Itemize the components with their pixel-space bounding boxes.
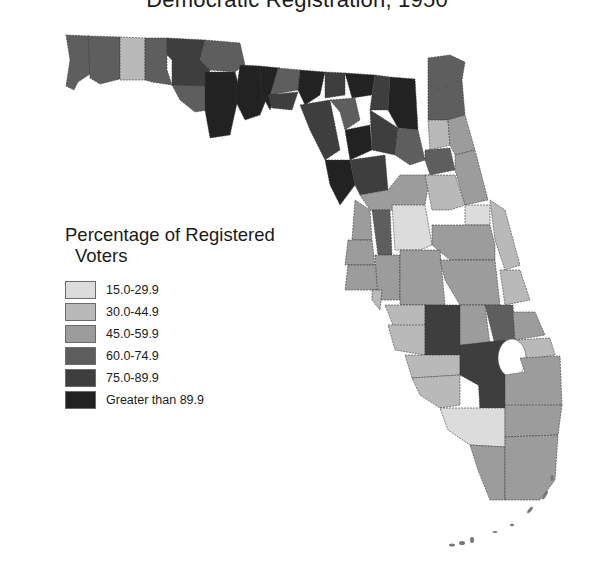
county bbox=[448, 115, 475, 155]
county bbox=[325, 160, 355, 205]
county bbox=[205, 72, 240, 138]
county bbox=[412, 375, 460, 408]
legend-label: 75.0-89.9 bbox=[106, 371, 159, 385]
legend-swatch bbox=[65, 347, 96, 365]
county bbox=[425, 148, 455, 175]
legend-swatch bbox=[65, 325, 96, 343]
legend-title-line2: Voters bbox=[65, 245, 275, 266]
legend-swatch bbox=[65, 303, 96, 321]
legend-label: 15.0-29.9 bbox=[106, 283, 159, 297]
county bbox=[428, 120, 450, 150]
county bbox=[440, 408, 505, 447]
legend-title-line1: Percentage of Registered bbox=[65, 224, 275, 245]
county bbox=[440, 260, 500, 305]
county bbox=[350, 155, 388, 195]
county bbox=[395, 128, 425, 165]
legend-label: Greater than 89.9 bbox=[106, 393, 204, 407]
legend-item: 15.0-29.9 bbox=[65, 279, 275, 301]
county bbox=[66, 35, 90, 90]
county bbox=[345, 265, 380, 290]
legend-swatch bbox=[65, 391, 96, 409]
county bbox=[268, 92, 298, 110]
county bbox=[120, 37, 145, 80]
county bbox=[345, 125, 372, 160]
county bbox=[432, 225, 495, 260]
legend-item: Greater than 89.9 bbox=[65, 389, 275, 411]
county bbox=[372, 290, 382, 310]
county bbox=[388, 325, 425, 355]
county bbox=[298, 70, 325, 105]
county bbox=[478, 375, 505, 412]
county bbox=[172, 85, 208, 112]
county bbox=[470, 445, 505, 500]
county bbox=[172, 60, 210, 88]
county bbox=[345, 240, 375, 265]
county bbox=[400, 250, 445, 305]
county bbox=[500, 270, 530, 305]
legend-item: 60.0-74.9 bbox=[65, 345, 275, 367]
county bbox=[345, 73, 375, 98]
county bbox=[88, 36, 120, 84]
county bbox=[300, 100, 340, 160]
county bbox=[372, 210, 392, 255]
legend-label: 60.0-74.9 bbox=[106, 349, 159, 363]
legend-swatch bbox=[65, 369, 96, 387]
legend-swatch bbox=[65, 281, 96, 299]
legend-label: 30.0-44.9 bbox=[106, 305, 159, 319]
county bbox=[388, 77, 418, 130]
legend-item: 75.0-89.9 bbox=[65, 367, 275, 389]
county bbox=[325, 72, 345, 98]
legend-list: 15.0-29.9 30.0-44.9 45.0-59.9 60.0-74.9 … bbox=[65, 279, 275, 411]
legend-label: 45.0-59.9 bbox=[106, 327, 159, 341]
county bbox=[405, 355, 460, 378]
legend-item: 30.0-44.9 bbox=[65, 301, 275, 323]
legend-item: 45.0-59.9 bbox=[65, 323, 275, 345]
county bbox=[392, 205, 432, 250]
legend: Percentage of Registered Voters 15.0-29.… bbox=[65, 224, 275, 411]
county bbox=[465, 205, 490, 225]
county bbox=[505, 405, 562, 437]
legend-title: Percentage of Registered Voters bbox=[65, 224, 275, 266]
county bbox=[425, 305, 460, 355]
county bbox=[513, 312, 545, 340]
county bbox=[505, 435, 558, 500]
